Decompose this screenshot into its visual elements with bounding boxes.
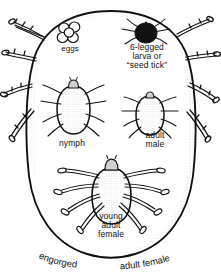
label-nymph: nymph [44,139,100,148]
svg-text:engorged: engorged [37,250,77,270]
eggs-cluster [57,22,80,43]
tick-life-cycle-figure: engorged adult female eggs 6-legged larv… [0,0,221,276]
label-eggs: eggs [48,45,92,54]
label-young-adult-female: young adult female [82,212,140,240]
caption-engorged: engorged [37,250,77,270]
label-six-legged-larva: 6-legged larva or “seed tick” [108,43,186,71]
label-adult-male: adult male [132,131,178,149]
